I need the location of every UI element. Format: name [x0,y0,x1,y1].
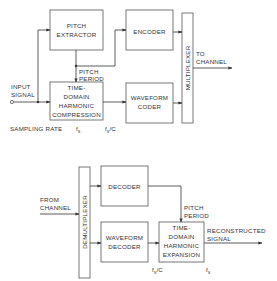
pitch-extractor-label-1: PITCH [67,22,87,29]
encoder-block: ENCODER [126,10,173,50]
pitch-extractor-label-2: EXTRACTOR [57,31,97,38]
fs-label: fs [206,266,211,275]
waveform-decoder-label-2: DECODER [108,243,141,250]
encoder-label: ENCODER [133,28,166,35]
pitch-period-connection-decoder: PITCH PERIOD [148,186,209,222]
multiplexer-label: MULTIPLEXER [184,45,191,90]
tdhc-label-2: DOMAIN [64,93,90,100]
pitch-period-label-2: PERIOD [184,212,209,219]
tdhe-label-1: TIME- [173,224,191,231]
sampling-rate-label: SAMPLING RATE [10,125,62,132]
speech-coding-block-diagram: PITCH EXTRACTOR ENCODER TIME- DOMAIN HAR… [0,0,277,281]
pitch-extractor-block: PITCH EXTRACTOR [50,10,103,50]
demultiplexer-label: DEMULTIPLEXER [81,195,88,249]
from-channel-label-2: CHANNEL [40,204,71,211]
waveform-coder-label-2: CODER [138,103,162,110]
input-signal-label-1: INPUT [11,83,31,90]
reconstructed-signal-output: RECONSTRUCTED SIGNAL [204,227,266,243]
waveform-decoder-label-1: WAVEFORM [106,234,143,241]
tdhc-label-1: TIME- [68,84,86,91]
to-channel-output: TO CHANNEL [193,50,232,68]
tdhe-label-2: DOMAIN [169,233,195,240]
decoder-label: DECODER [108,183,141,190]
decoder-rate-labels: fs/C fs [152,266,211,275]
fs-label: fs [76,125,81,134]
time-domain-harmonic-expansion-block: TIME- DOMAIN HARMONIC EXPANSION [159,222,204,262]
waveform-coder-block: WAVEFORM CODER [126,83,173,123]
tdhe-label-4: EXPANSION [163,251,200,258]
pitch-period-label-2: PERIOD [79,75,104,82]
demultiplexer-block: DEMULTIPLEXER [79,167,90,278]
tdhc-label-3: HARMONIC [59,102,95,109]
fs-over-c-label: fs/C [152,266,163,275]
reconstructed-signal-label-1: RECONSTRUCTED [207,227,266,234]
multiplexer-block: MULTIPLEXER [182,13,193,123]
waveform-coder-label-1: WAVEFORM [131,94,168,101]
fs-over-c-label: fs/C [105,125,116,134]
pitch-period-label-1: PITCH [79,68,99,75]
encoder-diagram: PITCH EXTRACTOR ENCODER TIME- DOMAIN HAR… [10,10,232,134]
time-domain-harmonic-compression-block: TIME- DOMAIN HARMONIC COMPRESSION [50,82,103,120]
reconstructed-signal-label-2: SIGNAL [207,235,231,242]
from-channel-label-1: FROM [40,196,59,203]
to-channel-label-2: CHANNEL [196,58,227,65]
input-signal-label-2: SIGNAL [11,91,35,98]
tdhe-label-3: HARMONIC [164,242,200,249]
sampling-rate-labels: SAMPLING RATE fs fs/C [10,125,116,134]
decoder-block: DECODER [101,166,148,206]
to-channel-label-1: TO [196,50,205,57]
decoder-diagram: DEMULTIPLEXER DECODER WAVEFORM DECODER T… [40,166,266,278]
input-signal-connection: INPUT SIGNAL [10,30,50,104]
from-channel-input: FROM CHANNEL [40,196,79,214]
tdhc-label-4: COMPRESSION [52,111,101,118]
pitch-period-label-1: PITCH [184,204,204,211]
waveform-decoder-block: WAVEFORM DECODER [101,222,148,262]
